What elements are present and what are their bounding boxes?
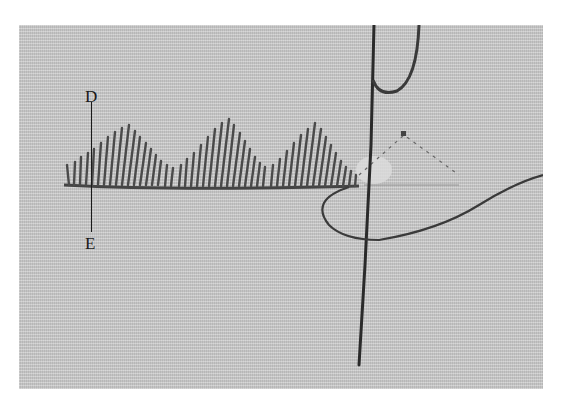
needle-icon: [359, 25, 374, 365]
label-e: E: [85, 235, 95, 252]
label-d: D: [85, 88, 97, 105]
label-leader-line: [91, 102, 92, 232]
scallop-stitches-3: [271, 123, 356, 186]
stitch-illustration: [19, 25, 543, 389]
embroidery-photo: [19, 25, 543, 389]
scallop-stitches-1: [67, 125, 173, 186]
scallop-stitches-2: [179, 119, 265, 186]
